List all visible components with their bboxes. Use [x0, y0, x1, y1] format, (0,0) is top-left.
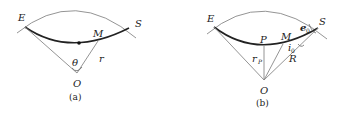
label-e-b: E — [206, 13, 215, 24]
radius-line-om-a — [77, 41, 98, 73]
trajectory-point-a — [77, 41, 81, 45]
label-m-a: M — [92, 28, 104, 39]
label-o-b: O — [260, 85, 268, 96]
label-s-b: S — [319, 16, 326, 27]
svg-text:0: 0 — [306, 27, 310, 34]
svg-text:P: P — [257, 58, 263, 65]
radius-line-om-b — [264, 44, 283, 80]
caption-b: (b) — [256, 98, 269, 108]
svg-text:0: 0 — [291, 47, 295, 54]
label-o-a: O — [73, 78, 81, 89]
orbit-diagram: E S M θ r O (a) E S P M R r P e 0 i 0 — [0, 0, 338, 113]
panel-b: E S P M R r P e 0 i 0 O (b) — [206, 11, 327, 108]
caption-a: (a) — [69, 92, 81, 102]
label-e-a: E — [17, 12, 26, 23]
label-p: P — [259, 34, 267, 45]
label-r-point: R — [288, 53, 297, 64]
label-e0: e 0 — [300, 22, 310, 34]
panel-a: E S M θ r O (a) — [17, 11, 142, 102]
label-theta: θ — [72, 57, 78, 68]
label-r: r — [99, 53, 105, 64]
radius-line-oe-a — [25, 27, 77, 73]
label-i0: i 0 — [288, 42, 295, 54]
label-rp: r P — [252, 53, 263, 65]
label-s-a: S — [135, 18, 142, 29]
label-m-b: M — [280, 31, 292, 42]
